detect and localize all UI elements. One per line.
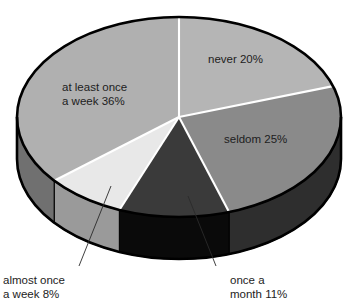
pie-label-almost-once-a-week: almost oncea week 8%: [3, 274, 65, 300]
pie-chart-figure: never 20%seldom 25%once amonth 11%almost…: [0, 0, 349, 308]
pie-label-seldom: seldom 25%: [224, 133, 287, 145]
pie-label-once-a-month: once amonth 11%: [230, 274, 287, 300]
pie-chart-canvas: never 20%seldom 25%once amonth 11%almost…: [0, 0, 349, 308]
pie-label-never: never 20%: [208, 53, 263, 65]
